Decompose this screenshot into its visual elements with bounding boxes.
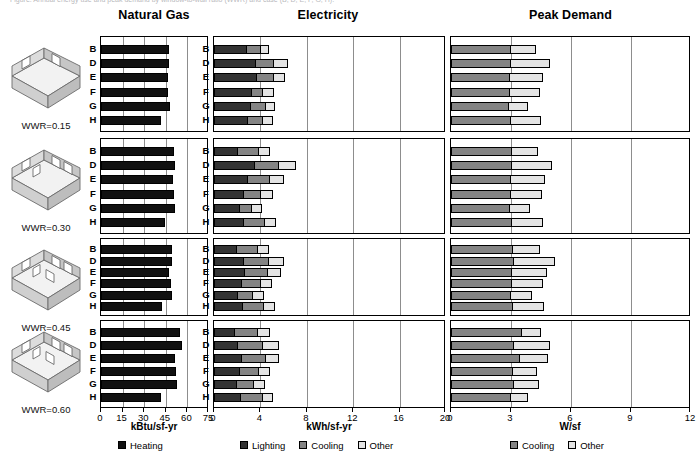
bar-peak-D <box>451 59 551 68</box>
bar-segment-cooling <box>451 328 522 337</box>
plot-peak-group-3 <box>450 320 690 408</box>
bar-segment-other <box>510 190 542 199</box>
gridline <box>307 321 308 407</box>
category-label-F: F <box>199 189 213 198</box>
panel-titles: Natural Gas Electricity Peak Demand <box>0 8 693 28</box>
bar-gas-D <box>101 257 172 266</box>
bar-segment-heating <box>101 88 168 97</box>
bar-elec-H <box>214 302 277 311</box>
category-label-F: F <box>86 278 100 287</box>
bar-segment-cooling <box>451 291 511 300</box>
gridline <box>187 239 188 315</box>
bar-elec-F <box>214 279 274 288</box>
category-label-H: H <box>86 301 100 310</box>
bar-segment-heating <box>101 245 172 254</box>
category-label-F: F <box>199 87 213 96</box>
building-model-icon <box>4 36 88 110</box>
gridline <box>307 239 308 315</box>
bar-segment-cooling <box>256 73 274 82</box>
bar-segment-other <box>510 393 528 402</box>
bar-gas-B <box>101 328 180 337</box>
bar-segment-cooling <box>246 45 261 54</box>
category-label-D: D <box>199 58 213 67</box>
category-label-H: H <box>86 392 100 401</box>
bar-segment-lighting <box>214 279 242 288</box>
bar-segment-lighting <box>214 302 243 311</box>
bar-segment-other <box>257 328 270 337</box>
gridline <box>400 37 401 131</box>
bar-segment-other <box>509 88 540 97</box>
bar-segment-lighting <box>214 341 238 350</box>
bar-segment-other <box>262 393 274 402</box>
gridline <box>631 139 632 233</box>
bar-gas-D <box>101 59 169 68</box>
gridline <box>400 321 401 407</box>
category-labels-gas-group-1: BDEFGH <box>86 138 100 234</box>
category-label-E: E <box>86 72 100 81</box>
bar-peak-G <box>451 291 533 300</box>
category-label-B: B <box>199 44 213 53</box>
wwr-thumbnail-3: WWR=0.60 <box>4 320 88 414</box>
gridline <box>571 239 572 315</box>
legend-swatch-cooling <box>510 441 518 449</box>
bar-gas-G <box>101 102 170 111</box>
bar-gas-E <box>101 268 169 277</box>
x-axis-elec: 048121620kWh/sf-yr <box>213 408 445 434</box>
bar-segment-lighting <box>214 102 251 111</box>
legend-swatch-cooling <box>299 441 307 449</box>
bar-segment-cooling <box>242 302 264 311</box>
bar-segment-cooling <box>451 204 510 213</box>
bar-segment-heating <box>101 59 169 68</box>
bar-segment-cooling <box>451 268 512 277</box>
bar-peak-B <box>451 147 539 156</box>
legend-item-cooling: Cooling <box>299 440 343 451</box>
bar-segment-other <box>510 59 550 68</box>
gridline <box>631 239 632 315</box>
bar-segment-cooling <box>241 354 266 363</box>
category-label-H: H <box>86 115 100 124</box>
bar-gas-G <box>101 380 177 389</box>
bar-segment-other <box>511 268 547 277</box>
gridline <box>353 139 354 233</box>
category-label-D: D <box>86 160 100 169</box>
category-label-F: F <box>199 278 213 287</box>
bar-segment-other <box>253 380 265 389</box>
bar-segment-cooling <box>451 218 512 227</box>
bar-gas-D <box>101 161 175 170</box>
category-label-B: B <box>86 244 100 253</box>
plot-peak-group-2 <box>450 238 690 316</box>
legend-elec: LightingCoolingOther <box>240 438 407 452</box>
bar-peak-F <box>451 367 538 376</box>
bar-elec-E <box>214 354 281 363</box>
bar-segment-other <box>258 367 270 376</box>
gridline <box>631 321 632 407</box>
category-label-G: G <box>86 101 100 110</box>
wwr-thumbnail-2: WWR=0.45 <box>4 238 88 332</box>
bar-segment-other <box>258 147 270 156</box>
category-labels-elec-group-0: BDEFGH <box>199 36 213 132</box>
bar-gas-E <box>101 175 173 184</box>
category-label-E: E <box>199 267 213 276</box>
bar-segment-heating <box>101 45 169 54</box>
bar-segment-other <box>512 302 544 311</box>
bar-segment-cooling <box>451 88 510 97</box>
bar-segment-other <box>257 245 270 254</box>
bar-segment-cooling <box>451 341 514 350</box>
category-label-H: H <box>199 115 213 124</box>
bar-gas-G <box>101 204 175 213</box>
gridline <box>187 139 188 233</box>
bar-segment-lighting <box>214 59 256 68</box>
bar-elec-G <box>214 291 266 300</box>
category-label-E: E <box>86 174 100 183</box>
panel-title-peak-demand: Peak Demand <box>448 8 693 22</box>
gridline <box>187 321 188 407</box>
legend-gas: Heating <box>118 438 177 452</box>
bar-peak-E <box>451 354 549 363</box>
wwr-thumbnail-0: WWR=0.15 <box>4 36 88 130</box>
wwr-label: WWR=0.15 <box>4 120 88 131</box>
legend-item-other: Other <box>568 440 604 451</box>
bar-segment-cooling <box>451 245 513 254</box>
category-label-G: G <box>199 290 213 299</box>
category-label-E: E <box>199 174 213 183</box>
bar-segment-lighting <box>214 175 248 184</box>
